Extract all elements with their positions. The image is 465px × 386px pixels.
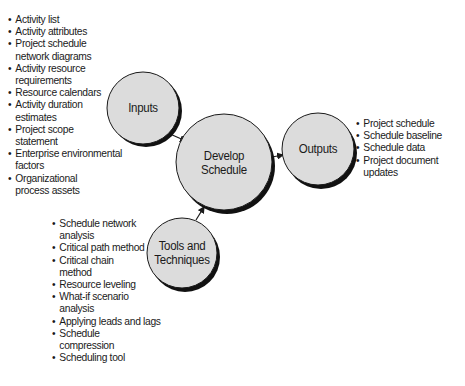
inputs-list-item: Project scopestatement [8, 123, 122, 147]
tools-list-item: Resource leveling [52, 278, 161, 290]
tools-list-item: What-if scenarioanalysis [52, 290, 161, 314]
inputs-list-item: Activity resourcerequirements [8, 62, 122, 86]
outputs-label-text: Outputs [299, 142, 337, 156]
outputs-list-item: Project documentupdates [356, 154, 442, 178]
inputs-list-item: Activity durationestimates [8, 98, 122, 122]
inputs-list-item: Activity attributes [8, 25, 122, 37]
develop-schedule-label: Develop Schedule [201, 149, 247, 177]
outputs-list-item: Schedule baseline [356, 129, 442, 141]
inputs-list-item: Enterprise environmentalfactors [8, 147, 122, 171]
tools-label-line2: Techniques [154, 253, 209, 267]
outputs-label: Outputs [299, 142, 337, 156]
inputs-list-item: Project schedulenetwork diagrams [8, 37, 122, 61]
tools-list-item: Schedule networkanalysis [52, 217, 161, 241]
tools-list: Schedule networkanalysis Critical path m… [52, 217, 161, 363]
tools-label-line1: Tools and [154, 239, 209, 253]
tools-list-item: Schedulecompression [52, 327, 161, 351]
outputs-list-item: Project schedule [356, 117, 442, 129]
inputs-label: Inputs [128, 101, 158, 115]
tools-list-item: Applying leads and lags [52, 315, 161, 327]
develop-schedule-label-line1: Develop [201, 149, 247, 163]
inputs-list-item: Activity list [8, 13, 122, 25]
tools-techniques-label: Tools and Techniques [154, 239, 209, 267]
edge-tools-to-process [196, 207, 204, 220]
develop-schedule-diagram: Inputs Develop Schedule Outputs Tools an… [0, 0, 465, 386]
inputs-label-text: Inputs [128, 101, 158, 115]
outputs-list-item: Schedule data [356, 141, 442, 153]
tools-list-item: Scheduling tool [52, 351, 161, 363]
outputs-list: Project schedule Schedule baseline Sched… [356, 117, 442, 178]
inputs-list-item: Resource calendars [8, 86, 122, 98]
inputs-list-item: Organizationalprocess assets [8, 172, 122, 196]
tools-list-item: Critical path method [52, 241, 161, 253]
tools-list-item: Critical chainmethod [52, 254, 161, 278]
inputs-list: Activity list Activity attributes Projec… [8, 13, 122, 196]
develop-schedule-label-line2: Schedule [201, 163, 247, 177]
